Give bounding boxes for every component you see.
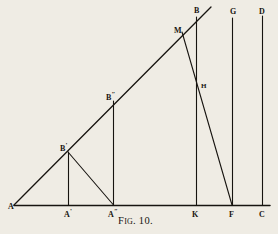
- ray-AB: [14, 7, 211, 205]
- label-point-M: M: [174, 24, 182, 35]
- figure-caption: FIG. 10.: [118, 215, 153, 226]
- label-point-B-prime: B': [60, 142, 68, 153]
- label-point-G: G: [230, 5, 236, 16]
- figure-drawing: [0, 0, 278, 234]
- figure-plate: A A' A″ K F C B' B″ M B G D H FIG. 10.: [0, 0, 278, 234]
- caption-smallcaps: IG: [124, 217, 133, 226]
- label-point-B-second: B″: [106, 91, 115, 102]
- segment-B-prime-A-second: [68, 152, 114, 205]
- label-point-A: A: [8, 200, 14, 211]
- label-point-F: F: [229, 208, 234, 219]
- label-point-H: H: [201, 80, 207, 90]
- label-point-A-prime: A': [64, 208, 72, 219]
- label-point-D: D: [259, 5, 265, 16]
- label-point-K: K: [192, 208, 198, 219]
- label-point-C: C: [259, 208, 265, 219]
- caption-tail: . 10.: [133, 215, 153, 226]
- label-point-B: B: [194, 4, 200, 15]
- segment-M-F: [182, 32, 232, 205]
- label-point-A-second: A″: [108, 208, 118, 219]
